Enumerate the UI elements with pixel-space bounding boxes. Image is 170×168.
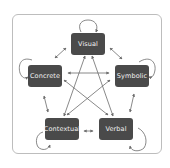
node-contextual: Contextual bbox=[45, 118, 79, 140]
node-concrete: Concrete bbox=[28, 65, 62, 87]
edge-visual-concrete bbox=[55, 48, 66, 58]
self-loop-visual bbox=[80, 20, 97, 32]
node-label-symbolic: Symbolic bbox=[117, 72, 147, 80]
node-verbal: Verbal bbox=[99, 118, 133, 140]
node-label-verbal: Verbal bbox=[105, 125, 126, 133]
node-visual: Visual bbox=[71, 33, 105, 55]
edge-visual-contextual bbox=[64, 56, 85, 116]
node-symbolic: Symbolic bbox=[115, 65, 149, 87]
node-label-contextual: Contextual bbox=[44, 125, 80, 133]
edge-concrete-contextual bbox=[44, 96, 48, 112]
edge-visual-symbolic bbox=[110, 48, 122, 59]
node-label-visual: Visual bbox=[78, 40, 98, 48]
edge-symbolic-contextual bbox=[67, 80, 110, 115]
edge-symbolic-verbal bbox=[130, 94, 134, 112]
node-label-concrete: Concrete bbox=[30, 72, 60, 80]
